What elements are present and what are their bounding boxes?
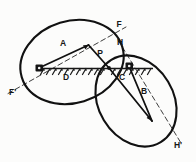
left-pivot-bearing (36, 65, 44, 72)
label-c: C (119, 72, 125, 82)
label-h-prime: H' (174, 140, 182, 150)
figure-canvas: F F' H H' P A B C D (0, 0, 196, 162)
label-a: A (60, 38, 66, 48)
caption-fragment (0, 153, 196, 162)
label-f-prime: F' (9, 87, 16, 97)
rolling-ellipses-diagram: F F' H H' P A B C D (0, 0, 196, 162)
label-f: F (116, 19, 121, 29)
label-h: H (117, 37, 123, 47)
label-d: D (63, 72, 69, 82)
label-p: P (97, 48, 103, 58)
right-pivot-bearing (126, 63, 134, 70)
contact-point-p (107, 66, 111, 70)
label-b: B (141, 86, 147, 96)
